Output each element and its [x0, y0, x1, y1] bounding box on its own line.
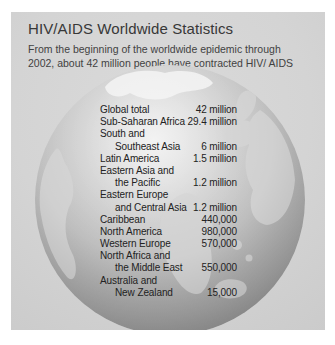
region-label: South and: [100, 128, 145, 140]
stat-value: 980,000: [202, 226, 237, 238]
region-label: Eastern Europe: [100, 189, 168, 201]
page-background: HIV/AIDS Worldwide Statistics From the b…: [0, 0, 335, 345]
statistics-table: Global total42 million Sub-Saharan Afric…: [100, 104, 237, 299]
stat-value: 440,000: [202, 214, 237, 226]
stat-row: Eastern Asia and: [100, 165, 237, 177]
region-label: Western Europe: [100, 238, 171, 250]
stat-row: the Pacific1.2 million: [100, 177, 237, 189]
stat-row: North America980,000: [100, 226, 237, 238]
region-label: Eastern Asia and: [100, 165, 174, 177]
stat-row: New Zealand15,000: [100, 287, 237, 299]
stat-row: Global total42 million: [100, 104, 237, 116]
stat-row: and Central Asia1.2 million: [100, 202, 237, 214]
region-label: and Central Asia: [100, 202, 187, 214]
region-label: North America: [100, 226, 162, 238]
stat-row: Latin America1.5 million: [100, 153, 237, 165]
stat-row: Western Europe570,000: [100, 238, 237, 250]
stat-row: South and: [100, 128, 237, 140]
stat-value: 550,000: [202, 262, 237, 274]
continent-americas: [40, 148, 76, 279]
continent-arctic: [105, 71, 213, 100]
stat-row: Australia and: [100, 275, 237, 287]
page-title: HIV/AIDS Worldwide Statistics: [28, 20, 233, 37]
stat-value: 1.2 million: [193, 202, 237, 214]
region-label: Sub-Saharan Africa: [100, 116, 185, 128]
region-label: Global total: [100, 104, 149, 116]
region-label: Australia and: [100, 275, 157, 287]
stat-value: 29.4 million: [188, 116, 237, 128]
stat-value: 6 million: [201, 141, 237, 153]
stat-value: 15,000: [207, 287, 237, 299]
stat-value: 42 million: [196, 104, 237, 116]
stat-row: Sub-Saharan Africa29.4 million: [100, 116, 237, 128]
region-label: Southeast Asia: [100, 141, 180, 153]
region-label: North Africa and: [100, 250, 170, 262]
region-label: the Pacific: [100, 177, 160, 189]
stat-row: Southeast Asia6 million: [100, 141, 237, 153]
stat-row: Caribbean440,000: [100, 214, 237, 226]
region-label: New Zealand: [100, 287, 173, 299]
subtitle-line-1: From the beginning of the worldwide epid…: [28, 42, 293, 56]
region-label: Latin America: [100, 153, 159, 165]
continent-asia: [246, 110, 295, 225]
stat-row: the Middle East550,000: [100, 262, 237, 274]
stat-value: 570,000: [202, 238, 237, 250]
region-label: the Middle East: [100, 262, 182, 274]
island-pacific: [246, 255, 253, 262]
stat-value: 1.5 million: [193, 153, 237, 165]
stat-row: Eastern Europe: [100, 189, 237, 201]
stat-row: North Africa and: [100, 250, 237, 262]
region-label: Caribbean: [100, 214, 145, 226]
statistics-card: HIV/AIDS Worldwide Statistics From the b…: [11, 12, 325, 330]
stat-value: 1.2 million: [193, 177, 237, 189]
